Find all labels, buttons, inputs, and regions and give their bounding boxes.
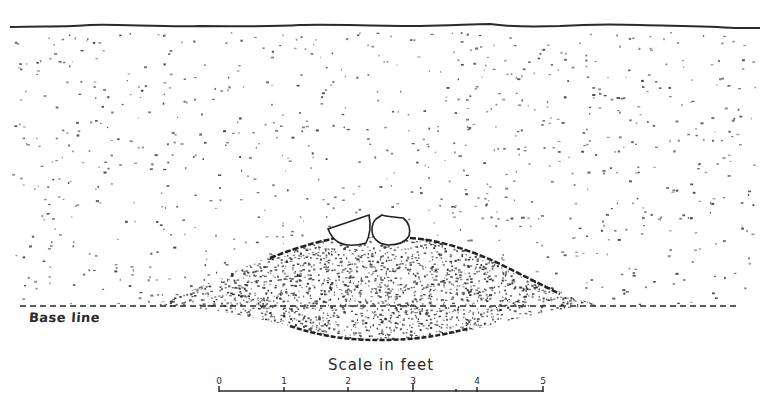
fill-stipple xyxy=(12,32,756,306)
scale-tick-1: 1 xyxy=(281,376,287,386)
mound-stipple xyxy=(150,234,603,344)
scale-bar xyxy=(219,383,543,392)
section-diagram xyxy=(0,0,770,402)
surface-line xyxy=(10,24,760,28)
jar-right-icon xyxy=(372,215,410,245)
scale-tick-5: 5 xyxy=(540,376,546,386)
baseline-label: Base line xyxy=(28,310,100,325)
scale-tick-0: 0 xyxy=(216,376,222,386)
scale-tick-3: 3 xyxy=(410,376,416,386)
scale-title: Scale in feet xyxy=(316,356,446,374)
bowl-left-icon xyxy=(328,215,370,245)
scale-tick-4: 4 xyxy=(474,376,480,386)
scale-tick-2: 2 xyxy=(345,376,351,386)
